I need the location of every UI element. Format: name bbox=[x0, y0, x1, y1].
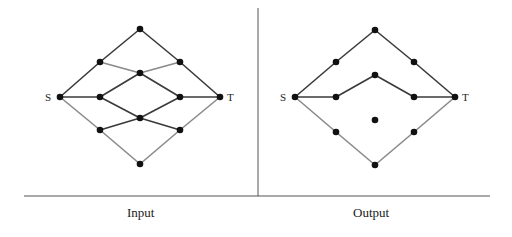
edge-ul-cu bbox=[100, 62, 140, 73]
node-ll bbox=[97, 127, 104, 134]
node-cl bbox=[137, 115, 144, 122]
node-top bbox=[372, 27, 379, 34]
output-graph: ST bbox=[280, 27, 469, 169]
edge-cl-mr bbox=[140, 97, 180, 118]
diagram-canvas: ST ST bbox=[0, 0, 512, 237]
node-T bbox=[452, 94, 459, 101]
source-label: S bbox=[45, 91, 51, 103]
sink-label: T bbox=[227, 91, 234, 103]
edge-top-ur bbox=[140, 29, 180, 62]
input-caption: Input bbox=[127, 205, 154, 221]
edge-bot-lr bbox=[140, 130, 180, 164]
edge-ll-cl bbox=[100, 118, 140, 130]
node-top bbox=[137, 26, 144, 33]
sink-label: T bbox=[462, 91, 469, 103]
edge-ul-top bbox=[336, 30, 375, 62]
node-cu bbox=[137, 70, 144, 77]
node-lr bbox=[411, 129, 418, 136]
node-lr bbox=[177, 127, 184, 134]
edge-S-ll bbox=[295, 97, 336, 132]
edge-S-ul bbox=[60, 62, 100, 97]
edge-bot-lr bbox=[375, 132, 414, 165]
node-mr bbox=[177, 94, 184, 101]
edge-cu-mr bbox=[140, 73, 180, 97]
edge-S-ul bbox=[295, 62, 336, 97]
node-bot bbox=[372, 162, 379, 169]
node-c bbox=[372, 117, 379, 124]
edge-cl-lr bbox=[140, 118, 180, 130]
edge-S-ll bbox=[60, 97, 100, 130]
edge-lr-T bbox=[180, 97, 220, 130]
edge-ll-bot bbox=[100, 130, 140, 164]
input-graph: ST bbox=[45, 26, 234, 168]
node-ur bbox=[177, 59, 184, 66]
node-S bbox=[292, 94, 299, 101]
node-bot bbox=[137, 161, 144, 168]
node-ul bbox=[97, 59, 104, 66]
output-caption: Output bbox=[353, 205, 389, 221]
node-ml bbox=[333, 94, 340, 101]
edge-lr-T bbox=[414, 97, 455, 132]
edge-ur-T bbox=[414, 62, 455, 97]
edge-top-ur bbox=[375, 30, 414, 62]
node-ll bbox=[333, 129, 340, 136]
frame-lines bbox=[24, 8, 490, 196]
edge-ml-cu bbox=[100, 73, 140, 97]
edge-ml-cu bbox=[336, 75, 375, 97]
node-cu bbox=[372, 72, 379, 79]
node-ul bbox=[333, 59, 340, 66]
edge-cu-ur bbox=[140, 62, 180, 73]
edge-cu-mr bbox=[375, 75, 414, 97]
edge-ur-T bbox=[180, 62, 220, 97]
node-ml bbox=[97, 94, 104, 101]
node-mr bbox=[411, 94, 418, 101]
node-T bbox=[217, 94, 224, 101]
source-label: S bbox=[280, 91, 286, 103]
edge-ll-bot bbox=[336, 132, 375, 165]
edge-ml-cl bbox=[100, 97, 140, 118]
edge-ul-top bbox=[100, 29, 140, 62]
node-ur bbox=[411, 59, 418, 66]
node-S bbox=[57, 94, 64, 101]
